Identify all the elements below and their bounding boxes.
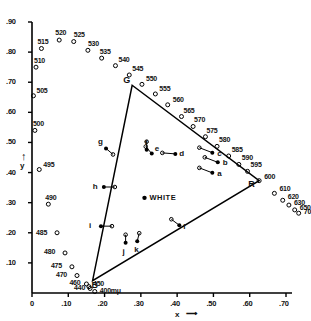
y-tick-label-.30: .30 [6,198,16,207]
sample-point-c [210,151,214,155]
x-axis-arrow: ⟶ [186,309,197,318]
locus-label-515: 515 [37,38,48,45]
white-point-group [142,196,146,200]
sample-label-a: a [217,169,221,178]
sample-label-d: d [179,149,184,158]
chromaticity-diagram-figure: .10.20.30.40.50.60.70.80.900.10.20.30.40… [0,0,311,321]
sample-label-h: h [93,182,98,191]
sample-point-d [173,152,177,156]
white-point-label: WHITE [149,193,176,202]
sample-point-f [145,148,149,152]
locus-point-525 [72,40,76,44]
sample-point-b [216,160,220,164]
locus-point-555 [153,92,157,96]
sample-label-f: f [145,138,147,147]
sample-point-i [99,224,103,228]
locus-label-470: 470 [56,271,67,278]
locus-label-575: 575 [206,127,217,134]
x-tick-label-0: 0 [30,299,34,308]
locus-label-500: 500 [33,120,44,127]
locus-point-495 [37,168,41,172]
x-tick-label-.40: .40 [170,299,180,308]
locus-label-560: 560 [173,96,184,103]
locus-label-510: 510 [34,57,45,64]
locus-point-500 [33,128,37,132]
locus-point-575 [203,135,207,139]
locus-label-400mμ: 400mμ [100,287,121,294]
locus-label-600: 600 [264,173,275,180]
sample-label-k: k [134,245,138,254]
locus-label-570: 570 [194,116,205,123]
sample-label-e: e [155,144,159,153]
sample-point-k [135,239,139,243]
y-tick-label-.70: .70 [6,77,16,86]
sample-label-c: c [217,149,221,158]
locus-point-475 [70,265,74,269]
sample-point-a [210,171,214,175]
x-tick-label-.60: .60 [243,299,253,308]
sample-label-l: l [183,222,185,231]
locus-label-610: 610 [279,185,290,192]
locus-point-470 [75,274,79,278]
locus-label-460: 460 [69,279,80,286]
locus-label-505: 505 [36,87,47,94]
locus-point-530 [86,48,90,52]
vertex-label-R: R [248,179,254,189]
y-tick-label-.50: .50 [6,137,16,146]
locus-label-520: 520 [55,29,66,36]
vertex-label-B: B [92,280,98,290]
locus-label-490: 490 [45,194,56,201]
y-tick-label-.60: .60 [6,107,16,116]
locus-label-530: 530 [88,40,99,47]
locus-point-570 [191,124,195,128]
locus-point-485 [55,231,59,235]
locus-point-510 [34,65,38,69]
locus-label-480: 480 [44,248,55,255]
vertex-label-G: G [123,75,130,85]
locus-point-650 [293,208,297,212]
x-tick-label-.10: .10 [61,299,71,308]
locus-label-545: 545 [132,65,143,72]
locus-label-595: 595 [251,161,262,168]
locus-label-525: 525 [74,31,85,38]
locus-label-565: 565 [183,107,194,114]
sample-point-j [124,241,128,245]
sample-point-l [177,223,181,227]
locus-point-565 [179,115,183,119]
locus-label-550: 550 [146,75,157,82]
locus-label-555: 555 [159,85,170,92]
locus-point-630 [287,203,291,207]
x-tick-label-.30: .30 [134,299,144,308]
sample-label-g: g [98,137,103,146]
locus-point-560 [166,103,170,107]
locus-label-540: 540 [118,56,129,63]
locus-label-585: 585 [232,146,243,153]
locus-point-700mμ [297,211,301,215]
y-tick-label-.80: .80 [6,47,16,56]
y-tick-label-.10: .10 [6,258,16,267]
sample-point-h [102,185,106,189]
locus-point-540 [113,64,117,68]
x-tick-label-.70: .70 [279,299,289,308]
locus-point-550 [140,82,144,86]
sample-point-e [150,152,154,156]
sample-label-j: j [123,247,125,256]
locus-label-535: 535 [100,48,111,55]
y-tick-label-.20: .20 [6,228,16,237]
y-tick-label-.40: .40 [6,168,16,177]
gamut-triangle-group [93,85,260,280]
locus-point-620 [281,198,285,202]
locus-point-535 [100,56,104,60]
locus-label-485: 485 [36,229,47,236]
x-axis-title: x [175,310,179,319]
white-point-marker [142,196,146,200]
sample-point-g [104,146,108,150]
y-tick-label-.90: .90 [6,17,16,26]
locus-point-490 [46,202,50,206]
x-tick-label-.20: .20 [98,299,108,308]
locus-point-515 [39,46,43,50]
sample-label-b: b [223,158,228,167]
locus-label-580: 580 [219,136,230,143]
gamut-triangle [93,85,260,280]
locus-point-610 [272,191,276,195]
